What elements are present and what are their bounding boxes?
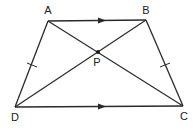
side-bc [146, 20, 183, 106]
diagonal-bd [15, 20, 146, 107]
label-p: P [93, 56, 100, 68]
parallel-arrow-icon [98, 104, 106, 110]
point-p-dot [96, 50, 100, 54]
parallel-arrow-icon [98, 18, 106, 24]
label-a: A [44, 4, 52, 16]
label-d: D [11, 111, 19, 123]
diagonal-ac [48, 21, 183, 106]
label-b: B [142, 4, 149, 16]
label-c: C [180, 110, 188, 122]
trapezium-diagram: A B P D C [0, 0, 196, 129]
side-ab [48, 20, 146, 21]
side-ad [15, 21, 48, 107]
